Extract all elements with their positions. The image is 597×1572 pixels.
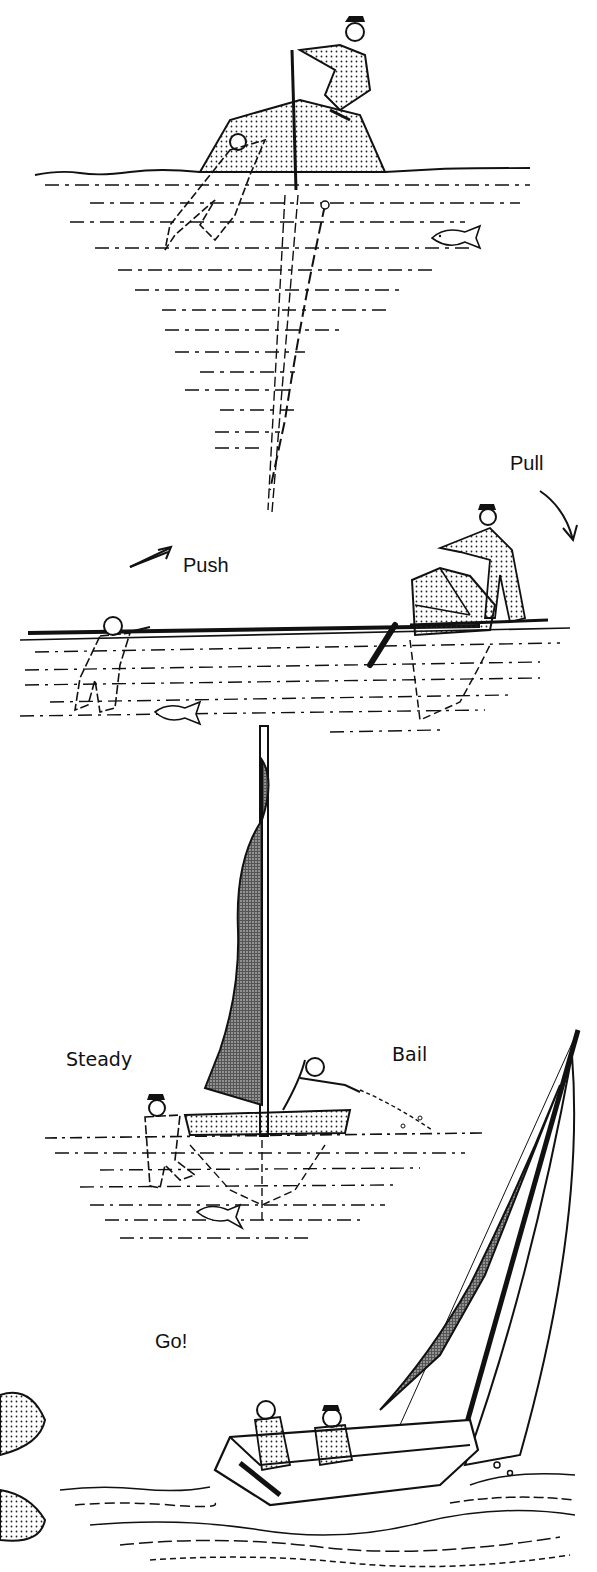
- label-pull: Pull: [510, 452, 543, 475]
- push-arrow-icon: [130, 547, 171, 567]
- panel-sailing-away: Go!: [0, 1025, 597, 1572]
- pull-arrow-icon: [540, 491, 577, 540]
- panel-4-drawing: [0, 1025, 597, 1572]
- fish-icon: [432, 226, 480, 248]
- label-push: Push: [183, 554, 229, 577]
- label-go: Go!: [155, 1330, 187, 1353]
- sailor-1: [255, 1401, 290, 1470]
- panel-push-pull: Push Pull: [0, 440, 597, 740]
- panel-2-drawing: [0, 440, 597, 740]
- sailor-2: [315, 1405, 352, 1465]
